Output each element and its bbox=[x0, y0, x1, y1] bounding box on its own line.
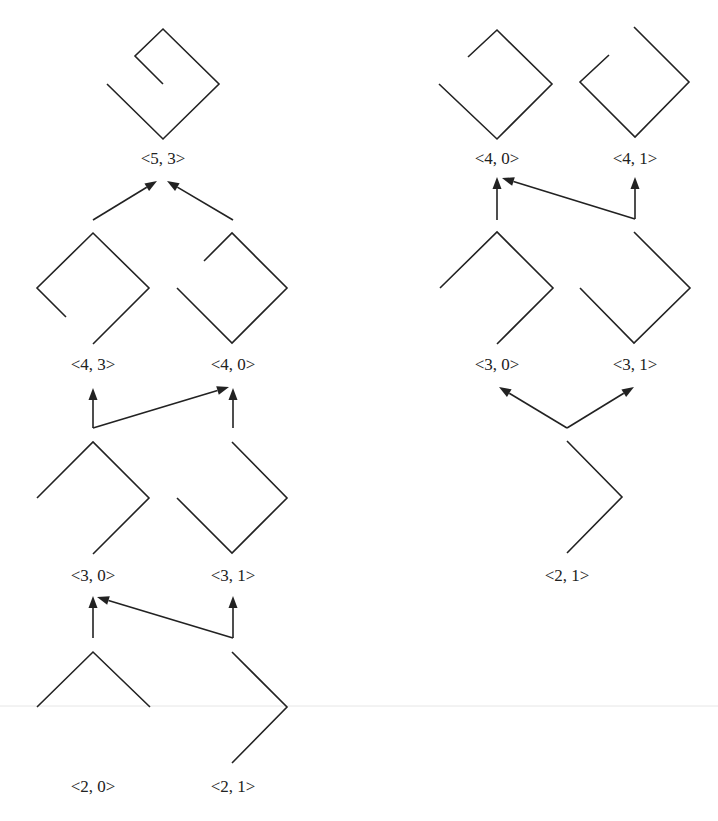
arrow-edge bbox=[229, 388, 238, 428]
tree-node: <4, 0> bbox=[439, 30, 552, 168]
node-label: <2, 1> bbox=[211, 777, 256, 796]
curve-shape bbox=[567, 441, 622, 553]
node-label: <2, 1> bbox=[545, 566, 590, 585]
arrow-edge bbox=[493, 177, 502, 220]
tree-node: <3, 0> bbox=[440, 232, 553, 374]
tree-node: <5, 3> bbox=[107, 29, 219, 168]
node-label: <2, 0> bbox=[71, 777, 116, 796]
curve-shape bbox=[177, 233, 287, 343]
curve-shape bbox=[37, 442, 149, 554]
tree-node: <3, 0> bbox=[37, 442, 149, 585]
arrowhead-icon bbox=[89, 388, 98, 400]
arrow-line bbox=[509, 393, 567, 428]
tree-node: <3, 1> bbox=[580, 232, 690, 374]
curve-shape bbox=[37, 233, 149, 344]
arrow-edge bbox=[502, 177, 635, 219]
arrow-edge bbox=[567, 387, 634, 428]
arrow-edge bbox=[229, 596, 238, 638]
arrowhead-icon bbox=[631, 177, 640, 189]
arrowhead-icon bbox=[167, 181, 180, 191]
arrow-edge bbox=[167, 181, 233, 220]
curve-shape bbox=[440, 232, 553, 344]
tree-node: <2, 0> bbox=[37, 652, 150, 796]
tree-node: <4, 0> bbox=[177, 233, 287, 374]
arrow-edge bbox=[499, 387, 567, 428]
right-tree: <4, 0><4, 1><3, 0><3, 1><2, 1> bbox=[439, 27, 690, 585]
arrow-edge bbox=[93, 181, 157, 220]
curve-shape bbox=[580, 232, 690, 343]
arrowhead-icon bbox=[499, 387, 512, 397]
arrowhead-icon bbox=[97, 596, 110, 605]
arrowhead-icon bbox=[144, 181, 157, 191]
curve-shape bbox=[37, 652, 150, 707]
arrow-line bbox=[567, 393, 624, 428]
node-label: <4, 0> bbox=[475, 149, 520, 168]
node-label: <3, 0> bbox=[475, 355, 520, 374]
arrow-edge bbox=[97, 596, 233, 638]
node-label: <4, 0> bbox=[211, 355, 256, 374]
tree-node: <3, 1> bbox=[177, 442, 287, 585]
node-label: <4, 3> bbox=[71, 355, 116, 374]
curve-shape bbox=[177, 442, 287, 553]
curve-shape bbox=[107, 29, 219, 139]
node-label: <4, 1> bbox=[613, 149, 658, 168]
arrow-edge bbox=[631, 177, 640, 219]
arrow-edge bbox=[93, 386, 229, 428]
node-label: <3, 1> bbox=[211, 566, 256, 585]
arrow-line bbox=[513, 182, 635, 219]
arrowhead-icon bbox=[621, 387, 634, 397]
tree-node: <2, 1> bbox=[545, 441, 622, 585]
node-label: <3, 1> bbox=[613, 355, 658, 374]
arrow-edge bbox=[89, 388, 98, 428]
arrow-line bbox=[93, 390, 218, 428]
tree-node: <2, 1> bbox=[211, 652, 287, 796]
diagram-canvas: <5, 3><4, 3><4, 0><3, 0><3, 1><2, 0><2, … bbox=[0, 0, 718, 821]
arrowhead-icon bbox=[216, 386, 229, 395]
arrow-line bbox=[93, 187, 147, 220]
arrowhead-icon bbox=[502, 177, 515, 186]
arrowhead-icon bbox=[493, 177, 502, 189]
tree-node: <4, 3> bbox=[37, 233, 149, 374]
arrowhead-icon bbox=[229, 596, 238, 608]
curve-shape bbox=[439, 30, 552, 139]
tree-node: <4, 1> bbox=[580, 27, 689, 168]
arrowhead-icon bbox=[89, 596, 98, 608]
node-label: <3, 0> bbox=[71, 566, 116, 585]
arrow-line bbox=[177, 187, 233, 220]
curve-shape bbox=[232, 652, 287, 763]
node-label: <5, 3> bbox=[141, 149, 186, 168]
left-tree: <5, 3><4, 3><4, 0><3, 0><3, 1><2, 0><2, … bbox=[37, 29, 287, 796]
arrow-line bbox=[108, 600, 233, 638]
arrow-edge bbox=[89, 596, 98, 638]
curve-shape bbox=[580, 27, 689, 137]
arrowhead-icon bbox=[229, 388, 238, 400]
